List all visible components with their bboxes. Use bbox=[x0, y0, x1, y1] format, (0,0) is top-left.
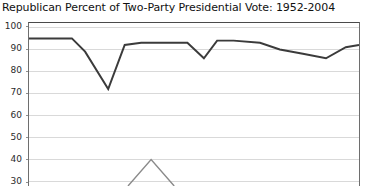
y-tick-label: 70 bbox=[11, 88, 22, 97]
y-tick-label: 30 bbox=[11, 177, 22, 186]
y-tick-label: 100 bbox=[5, 22, 22, 31]
series-line bbox=[29, 38, 359, 89]
y-tick-label: 90 bbox=[11, 44, 22, 53]
y-tick-label: 60 bbox=[11, 111, 22, 120]
chart-figure: Republican Percent of Two-Party Presiden… bbox=[0, 0, 374, 186]
y-tick-label: 50 bbox=[11, 133, 22, 142]
y-axis: 10090807060504030 bbox=[0, 22, 26, 186]
series-line bbox=[128, 160, 174, 186]
plot-area bbox=[28, 22, 360, 186]
y-tick-label: 80 bbox=[11, 66, 22, 75]
y-tick-label: 40 bbox=[11, 155, 22, 164]
chart-title: Republican Percent of Two-Party Presiden… bbox=[2, 1, 372, 14]
data-series-layer bbox=[29, 23, 359, 186]
